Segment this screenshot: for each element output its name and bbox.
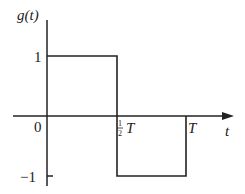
y-tick-label-minus-one: −1: [20, 169, 36, 185]
half-t-denominator: 2: [118, 129, 122, 138]
y-tick-label-one: 1: [34, 49, 42, 65]
x-axis-arrow-icon: [222, 112, 234, 120]
x-axis-label: t: [225, 123, 230, 139]
chart-figure: g(t) 1 0 −1 1 2 T T t: [0, 0, 245, 194]
x-tick-label-T: T: [188, 120, 198, 136]
y-axis-label: g(t): [17, 7, 39, 24]
square-wave-plot: g(t) 1 0 −1 1 2 T T t: [0, 0, 245, 194]
half-t-numerator: 1: [118, 119, 122, 128]
origin-label: 0: [34, 119, 42, 135]
half-t-T-label: T: [126, 120, 136, 136]
